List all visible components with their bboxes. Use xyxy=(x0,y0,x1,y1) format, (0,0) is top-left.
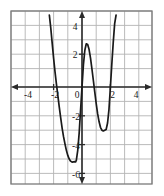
y-tick-label-neg2: -2 xyxy=(72,112,80,122)
y-tick-label-neg6: -6 xyxy=(72,170,80,180)
y-tick-label-2: 2 xyxy=(73,50,78,60)
x-tick-label-4: 4 xyxy=(134,90,139,100)
graph-canvas: -4 -2 2 4 0 4 2 -2 -4 -6 xyxy=(0,0,164,196)
y-tick-label-4: 4 xyxy=(73,22,78,32)
origin-label: 0 xyxy=(75,90,80,100)
coordinate-graph-figure: -4 -2 2 4 0 4 2 -2 -4 -6 xyxy=(0,0,164,196)
x-tick-label-neg4: -4 xyxy=(24,90,32,100)
